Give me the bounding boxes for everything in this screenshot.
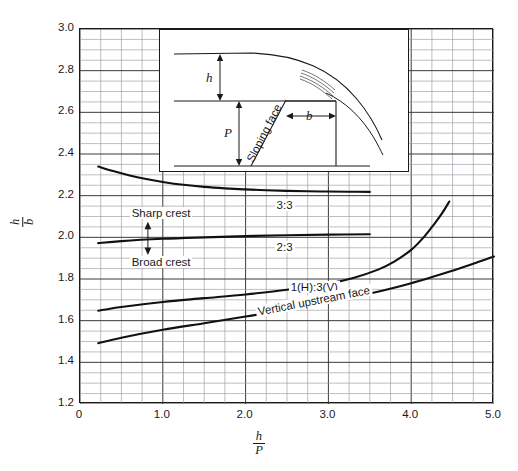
h-dimension-arrow xyxy=(217,54,223,101)
y-tick-label: 2.0 xyxy=(40,230,74,241)
x-tick-label: 0 xyxy=(76,408,82,420)
y-tick-label: 1.8 xyxy=(40,272,74,283)
cut-off-title xyxy=(46,0,476,8)
weir-schematic-svg xyxy=(160,30,409,172)
y-axis-title-denominator: b xyxy=(22,217,36,227)
y-tick-label: 2.2 xyxy=(40,189,74,200)
P-dimension-arrow xyxy=(236,101,242,166)
nappe-upper-curve xyxy=(174,53,382,140)
weir-schematic-inset: h P b Sloping face xyxy=(159,29,409,172)
annotation-broad-crest: Broad crest xyxy=(130,256,193,268)
y-axis-title: h b xyxy=(9,217,37,227)
curve-2-3 xyxy=(98,234,370,243)
x-axis-tick-labels: 01.02.03.04.05.0 xyxy=(79,406,493,422)
x-axis-title-numerator: h xyxy=(253,430,265,443)
annotation-sharp-crest: Sharp crest xyxy=(130,207,193,219)
y-tick-label: 1.2 xyxy=(40,397,74,408)
figure-root: 1.21.41.61.82.02.22.42.62.83.0 3:32:31(H… xyxy=(0,0,518,471)
x-tick-label: 5.0 xyxy=(485,408,501,420)
y-tick-label: 1.4 xyxy=(40,355,74,366)
y-tick-label: 3.0 xyxy=(40,22,74,33)
x-axis-title-denominator: P xyxy=(253,443,265,457)
x-tick-label: 2.0 xyxy=(237,408,253,420)
y-axis-title-numerator: h xyxy=(9,217,22,227)
curve-label-2-3: 2:3 xyxy=(275,241,295,253)
x-tick-label: 1.0 xyxy=(154,408,170,420)
inset-label-P: P xyxy=(224,125,232,141)
x-tick-label: 3.0 xyxy=(319,408,335,420)
y-axis-tick-labels: 1.21.41.61.82.02.22.42.62.83.0 xyxy=(36,28,74,403)
inset-label-h: h xyxy=(206,70,213,86)
x-tick-label: 4.0 xyxy=(402,408,418,420)
y-tick-label: 2.4 xyxy=(40,147,74,158)
y-tick-label: 1.6 xyxy=(40,314,74,325)
inset-label-b: b xyxy=(306,108,313,124)
y-tick-label: 2.6 xyxy=(40,105,74,116)
x-axis-title: h P xyxy=(0,430,518,458)
curve-label-3-3: 3:3 xyxy=(275,199,295,211)
y-tick-label: 2.8 xyxy=(40,64,74,75)
